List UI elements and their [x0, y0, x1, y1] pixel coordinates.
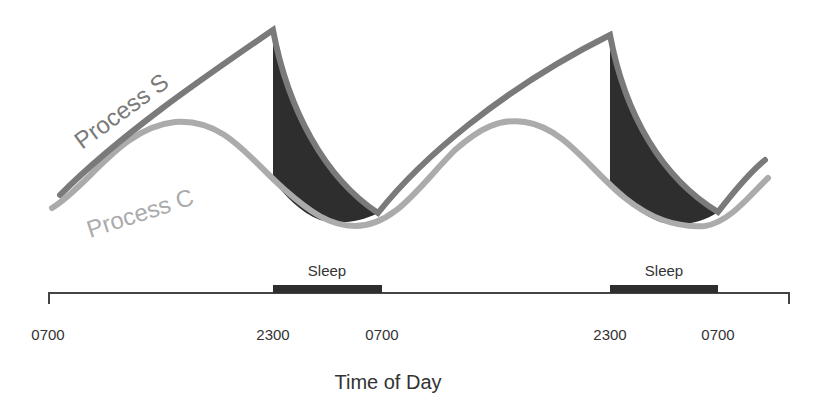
- tick-label-0700-a: 0700: [31, 326, 64, 343]
- sleep-label-1: Sleep: [308, 262, 346, 279]
- tick-label-2300-a: 2300: [256, 326, 289, 343]
- tick-label-2300-b: 2300: [593, 326, 626, 343]
- process-c-label: Process C: [83, 183, 197, 243]
- sleep-label-2: Sleep: [645, 262, 683, 279]
- sleep-bar-2: [610, 285, 718, 293]
- two-process-diagram: Process S Process C Sleep Sleep 0700 230…: [0, 0, 815, 409]
- tick-label-0700-c: 0700: [701, 326, 734, 343]
- x-axis-title: Time of Day: [334, 371, 441, 393]
- tick-label-0700-b: 0700: [365, 326, 398, 343]
- sleep-bar-1: [273, 285, 382, 293]
